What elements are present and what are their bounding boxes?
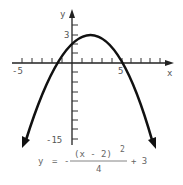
x-axis-arrow-icon <box>165 60 174 66</box>
y-axis-arrow-icon <box>69 9 75 18</box>
x-axis-label: x <box>167 68 173 78</box>
equation-numerator: (x - 2) <box>74 149 112 159</box>
equation-equals: = <box>52 156 58 166</box>
y-axis-label: y <box>60 9 66 19</box>
equation-lhs: y <box>38 156 44 166</box>
x-tick-label-5: 5 <box>118 66 123 76</box>
parabola-graph: y x -5 5 3 -15 y = - (x - 2) 2 4 + 3 <box>0 0 183 185</box>
parabola-curve <box>26 35 152 140</box>
equation-exponent: 2 <box>120 145 125 154</box>
equation-sign: - <box>64 156 69 166</box>
y-tick-label-neg15: -15 <box>46 135 62 145</box>
equation-denominator: 4 <box>96 164 101 174</box>
y-tick-label-3: 3 <box>64 30 69 40</box>
equation-tail: + 3 <box>131 156 147 166</box>
equation: y = - (x - 2) 2 4 + 3 <box>38 145 147 174</box>
x-axis-ticks <box>22 58 160 63</box>
x-tick-label-neg5: -5 <box>12 66 23 76</box>
right-arrowhead-icon <box>148 137 156 149</box>
